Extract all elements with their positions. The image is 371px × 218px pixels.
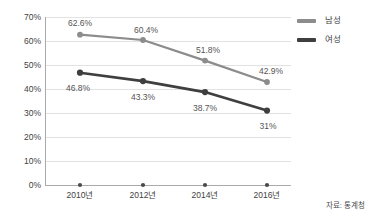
x-axis-tick-label: 2012년 bbox=[130, 191, 157, 200]
data-label-male: 51.8% bbox=[196, 46, 220, 55]
series-marker-female bbox=[264, 108, 270, 114]
x-axis-tick-label: 2014년 bbox=[192, 191, 219, 200]
axis-category-marker bbox=[141, 183, 145, 187]
x-axis-tick-label: 2016년 bbox=[254, 191, 281, 200]
series-marker-male bbox=[202, 58, 208, 64]
data-label-male: 62.6% bbox=[68, 19, 92, 28]
series-marker-male bbox=[264, 79, 270, 85]
chart-container: 70% 60% 50% 40% 30% 20% 10% 0% 62.6% 60.… bbox=[0, 0, 371, 218]
data-label-female: 38.7% bbox=[193, 104, 217, 113]
x-axis-tick-label: 2010년 bbox=[67, 191, 94, 200]
legend-label-male: 남성 bbox=[325, 16, 341, 25]
data-label-female: 43.3% bbox=[131, 93, 155, 102]
series-line-female bbox=[80, 73, 267, 111]
data-label-male: 60.4% bbox=[134, 26, 158, 35]
series-marker-male bbox=[77, 32, 83, 38]
chart-legend: 남성 여성 bbox=[297, 13, 367, 51]
axis-category-marker bbox=[203, 183, 207, 187]
series-marker-female bbox=[140, 78, 146, 84]
series-marker-male bbox=[140, 37, 146, 43]
legend-item-female[interactable]: 여성 bbox=[297, 32, 367, 47]
data-label-male: 42.9% bbox=[259, 67, 283, 76]
legend-label-female: 여성 bbox=[325, 35, 341, 44]
axis-category-marker bbox=[78, 183, 82, 187]
source-note: 자료: 통계청 bbox=[326, 199, 365, 210]
axis-category-marker bbox=[265, 183, 269, 187]
data-label-female: 46.8% bbox=[66, 84, 90, 93]
series-marker-female bbox=[77, 70, 83, 76]
series-line-male bbox=[80, 35, 267, 82]
data-label-female: 31% bbox=[259, 122, 276, 131]
legend-swatch-female bbox=[297, 38, 316, 42]
x-axis-labels: 2010년 2012년 2014년 2016년 bbox=[0, 191, 371, 205]
legend-swatch-male bbox=[297, 19, 316, 23]
legend-item-male[interactable]: 남성 bbox=[297, 13, 367, 28]
series-marker-female bbox=[202, 89, 208, 95]
